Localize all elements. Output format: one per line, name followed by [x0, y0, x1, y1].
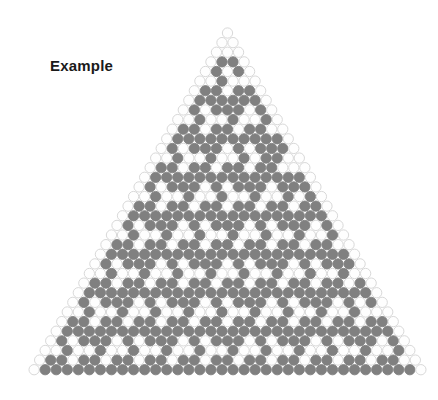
- triangle-cell-marked: [162, 345, 172, 355]
- triangle-cell-marked: [211, 259, 221, 269]
- triangle-cell-marked: [189, 278, 199, 288]
- triangle-cell-marked: [156, 336, 166, 346]
- triangle-cell-marked: [283, 288, 293, 298]
- triangle-cell-marked: [206, 268, 216, 278]
- triangle-cell-marked: [156, 163, 166, 173]
- triangle-cell-empty: [156, 316, 166, 326]
- triangle-cell-marked: [272, 172, 282, 182]
- triangle-cell-marked: [355, 336, 365, 346]
- triangle-cell-marked: [217, 365, 227, 375]
- triangle-cell-empty: [134, 355, 144, 365]
- triangle-cell-marked: [222, 278, 232, 288]
- triangle-cell-empty: [156, 182, 166, 192]
- triangle-cell-marked: [173, 153, 183, 163]
- triangle-cell-empty: [267, 182, 277, 192]
- triangle-cell-empty: [178, 336, 188, 346]
- triangle-cell-empty: [200, 297, 210, 307]
- triangle-cell-empty: [112, 220, 122, 230]
- triangle-cell-marked: [327, 365, 337, 375]
- triangle-cell-marked: [167, 259, 177, 269]
- triangle-cell-empty: [349, 268, 359, 278]
- triangle-cell-marked: [84, 326, 94, 336]
- triangle-cell-empty: [233, 47, 243, 57]
- triangle-cell-empty: [162, 153, 172, 163]
- triangle-cell-marked: [68, 316, 78, 326]
- triangle-cell-marked: [228, 134, 238, 144]
- triangle-cell-marked: [195, 288, 205, 298]
- triangle-cell-marked: [278, 239, 288, 249]
- triangle-cell-empty: [57, 316, 67, 326]
- triangle-cell-marked: [139, 249, 149, 259]
- triangle-cell-empty: [294, 153, 304, 163]
- triangle-cell-marked: [189, 163, 199, 173]
- triangle-cell-empty: [267, 355, 277, 365]
- triangle-cell-empty: [145, 163, 155, 173]
- triangle-cell-empty: [195, 268, 205, 278]
- triangle-cell-empty: [405, 345, 415, 355]
- triangle-cell-empty: [200, 105, 210, 115]
- triangle-cell-marked: [139, 288, 149, 298]
- triangle-cell-empty: [222, 259, 232, 269]
- triangle-cell-marked: [195, 95, 205, 105]
- triangle-cell-marked: [316, 326, 326, 336]
- triangle-cell-marked: [128, 345, 138, 355]
- triangle-cell-empty: [338, 345, 348, 355]
- triangle-cell-marked: [211, 124, 221, 134]
- triangle-cell-marked: [211, 297, 221, 307]
- triangle-cell-empty: [51, 326, 61, 336]
- triangle-cell-marked: [261, 230, 271, 240]
- triangle-cell-marked: [156, 239, 166, 249]
- triangle-cell-marked: [217, 326, 227, 336]
- triangle-cell-marked: [217, 288, 227, 298]
- triangle-cell-marked: [394, 345, 404, 355]
- triangle-cell-marked: [178, 201, 188, 211]
- triangle-cell-empty: [305, 345, 315, 355]
- triangle-cell-marked: [217, 249, 227, 259]
- triangle-cell-empty: [250, 345, 260, 355]
- triangle-cell-marked: [217, 134, 227, 144]
- triangle-cell-empty: [184, 345, 194, 355]
- triangle-cell-empty: [333, 336, 343, 346]
- triangle-cell-empty: [46, 336, 56, 346]
- triangle-cell-marked: [184, 365, 194, 375]
- triangle-cell-empty: [272, 307, 282, 317]
- triangle-cell-empty: [416, 365, 426, 375]
- triangle-cell-empty: [333, 355, 343, 365]
- triangle-cell-marked: [195, 249, 205, 259]
- triangle-cell-marked: [206, 172, 216, 182]
- triangle-cell-marked: [244, 355, 254, 365]
- triangle-cell-marked: [344, 297, 354, 307]
- triangle-cell-marked: [195, 365, 205, 375]
- triangle-cell-empty: [112, 336, 122, 346]
- triangle-cell-empty: [322, 201, 332, 211]
- triangle-cell-marked: [316, 307, 326, 317]
- triangle-cell-empty: [162, 307, 172, 317]
- triangle-cell-marked: [272, 249, 282, 259]
- triangle-cell-empty: [139, 191, 149, 201]
- triangle-cell-empty: [95, 268, 105, 278]
- triangle-cell-marked: [200, 278, 210, 288]
- triangle-cell-marked: [128, 211, 138, 221]
- triangle-cell-marked: [228, 230, 238, 240]
- triangle-cell-marked: [73, 365, 83, 375]
- triangle-cell-marked: [250, 326, 260, 336]
- triangle-cell-marked: [278, 143, 288, 153]
- triangle-cell-marked: [283, 191, 293, 201]
- triangle-cell-marked: [272, 268, 282, 278]
- triangle-cell-marked: [200, 259, 210, 269]
- triangle-cell-empty: [233, 124, 243, 134]
- triangle-cell-marked: [233, 86, 243, 96]
- triangle-cell-marked: [101, 297, 111, 307]
- triangle-cell-marked: [79, 355, 89, 365]
- triangle-cell-marked: [233, 182, 243, 192]
- triangle-cell-empty: [349, 345, 359, 355]
- triangle-cell-marked: [283, 365, 293, 375]
- triangle-cell-marked: [151, 249, 161, 259]
- triangle-cell-marked: [244, 316, 254, 326]
- triangle-cell-marked: [300, 297, 310, 307]
- triangle-cell-marked: [79, 316, 89, 326]
- triangle-cell-marked: [244, 182, 254, 192]
- triangle-cell-marked: [283, 307, 293, 317]
- triangle-cell-marked: [222, 163, 232, 173]
- triangle-cell-marked: [211, 220, 221, 230]
